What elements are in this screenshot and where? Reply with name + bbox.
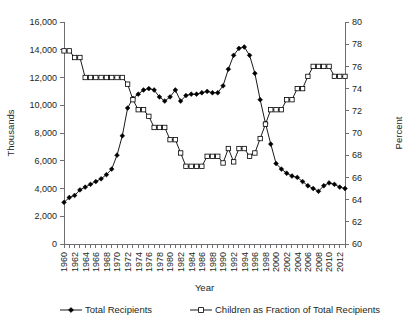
data-point-marker [343, 74, 347, 78]
data-point-marker [247, 154, 251, 158]
x-tick-label: 1974 [134, 252, 144, 272]
legend-item-2: Children as Fraction of Total Recipients [190, 304, 380, 315]
data-point-marker [83, 185, 88, 190]
plot-frame [64, 22, 345, 244]
data-point-marker [99, 75, 103, 79]
y-tick-label-right: 62 [352, 217, 362, 227]
data-point-marker [252, 71, 257, 76]
x-tick-label: 2010 [324, 252, 334, 272]
y-tick-label-right: 72 [352, 106, 362, 116]
data-point-marker [284, 98, 288, 102]
data-point-marker [163, 125, 167, 129]
x-axis-title: Year [195, 282, 214, 293]
y-tick-label-right: 64 [352, 195, 362, 205]
data-point-marker [147, 114, 151, 118]
data-point-marker [316, 64, 320, 68]
data-point-marker [306, 74, 310, 78]
data-point-marker [237, 146, 241, 150]
data-point-marker [125, 106, 130, 111]
data-point-marker [231, 160, 235, 164]
y-tick-label-left: 6,000 [34, 156, 57, 166]
data-point-marker [115, 75, 119, 79]
y-tick-label-right: 80 [352, 17, 362, 27]
x-tick-label: 1970 [112, 252, 122, 272]
data-point-marker [152, 125, 156, 129]
data-point-marker [221, 161, 225, 165]
data-point-marker [194, 164, 198, 168]
data-point-marker [200, 164, 204, 168]
data-point-marker [199, 90, 204, 95]
data-point-marker [205, 89, 210, 94]
data-point-marker [226, 67, 231, 72]
legend-marker-square [199, 308, 204, 313]
data-point-marker [178, 151, 182, 155]
data-point-marker [210, 154, 214, 158]
data-point-marker [125, 82, 129, 86]
data-point-marker [327, 181, 332, 186]
data-point-marker [210, 90, 215, 95]
data-point-marker [189, 92, 194, 97]
data-point-marker [157, 125, 161, 129]
data-point-marker [343, 186, 348, 191]
series-line [64, 51, 345, 166]
x-tick-label: 1964 [81, 252, 91, 272]
series-line [64, 47, 345, 202]
data-point-marker [72, 55, 76, 59]
x-tick-label: 2012 [335, 252, 345, 272]
x-tick-label: 1994 [240, 252, 250, 272]
data-point-marker [67, 49, 71, 53]
y-tick-label-left: 14,000 [29, 45, 57, 55]
data-point-marker [216, 154, 220, 158]
legend-label: Total Recipients [85, 304, 152, 315]
x-tick-label: 2008 [314, 252, 324, 272]
y-axis-right: 6062646668707274767880 [345, 17, 362, 249]
x-tick-label: 2002 [282, 252, 292, 272]
legend-marker-diamond [68, 307, 73, 312]
data-point-marker [93, 179, 98, 184]
y-tick-label-right: 78 [352, 39, 362, 49]
data-point-marker [295, 86, 299, 90]
data-point-marker [88, 182, 93, 187]
x-tick-label: 1998 [261, 252, 271, 272]
data-point-marker [311, 64, 315, 68]
data-point-marker [115, 153, 120, 158]
y-tick-label-right: 76 [352, 62, 362, 72]
data-point-marker [78, 55, 82, 59]
y-tick-label-right: 68 [352, 150, 362, 160]
data-point-marker [62, 49, 66, 53]
data-point-marker [322, 64, 326, 68]
x-tick-label: 1982 [176, 252, 186, 272]
legend-label: Children as Fraction of Total Recipients [215, 304, 380, 315]
data-point-marker [253, 151, 257, 155]
data-point-marker [279, 107, 283, 111]
y-tick-label-left: 4,000 [34, 184, 57, 194]
series-2 [62, 49, 347, 169]
data-point-marker [290, 174, 295, 179]
data-point-marker [189, 164, 193, 168]
data-point-marker [110, 75, 114, 79]
data-point-marker [168, 137, 172, 141]
data-point-marker [83, 75, 87, 79]
y-tick-label-right: 66 [352, 173, 362, 183]
x-tick-label: 1972 [123, 252, 133, 272]
y-axis-title-left: Thousands [5, 109, 16, 156]
data-point-marker [269, 107, 273, 111]
x-tick-label: 1978 [155, 252, 165, 272]
x-tick-label: 1990 [218, 252, 228, 272]
x-tick-label: 1962 [70, 252, 80, 272]
x-tick-label: 1988 [208, 252, 218, 272]
x-tick-label: 1996 [250, 252, 260, 272]
y-tick-label-left: 8,000 [34, 128, 57, 138]
data-point-marker [94, 75, 98, 79]
data-point-marker [242, 45, 247, 50]
data-point-marker [120, 75, 124, 79]
y-tick-label-right: 74 [352, 84, 362, 94]
data-point-marker [141, 107, 145, 111]
y-axis-title-right: Percent [393, 116, 404, 149]
x-tick-label: 1968 [102, 252, 112, 272]
y-tick-label-right: 60 [352, 239, 362, 249]
chart-legend: Total RecipientsChildren as Fraction of … [60, 304, 380, 315]
data-point-marker [300, 86, 304, 90]
x-axis: 1960196219641966196819701972197419761978… [59, 244, 345, 272]
data-point-marker [258, 136, 262, 140]
